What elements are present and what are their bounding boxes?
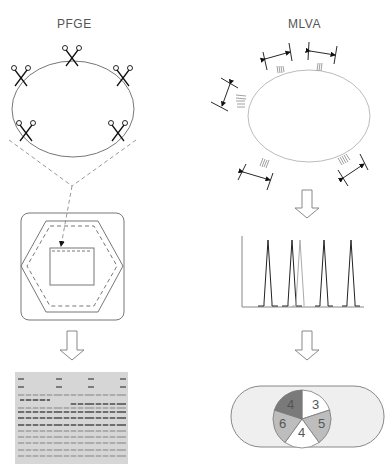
scissors-icon (63, 46, 82, 67)
pie-label: 4 (298, 425, 305, 440)
pie-label: 6 (279, 416, 286, 431)
scissors-icon (17, 121, 36, 142)
arrow-down-icon (60, 190, 319, 360)
mlva-profile-capsule: 3 5 4 6 4 (231, 386, 384, 448)
mlva-chromatogram (242, 236, 364, 307)
pie-label: 3 (312, 397, 319, 412)
pfge-chromosome (12, 46, 135, 158)
diagram-canvas: 3 5 4 6 4 (0, 0, 389, 474)
pie-label: 4 (287, 397, 294, 412)
agarose-plug-mold (21, 213, 124, 320)
zoom-funnel (9, 140, 136, 246)
pie-label: 5 (318, 416, 325, 431)
pfge-gel-image (15, 372, 128, 464)
mlva-chromosome (211, 42, 370, 190)
scissors-icon (109, 121, 128, 142)
